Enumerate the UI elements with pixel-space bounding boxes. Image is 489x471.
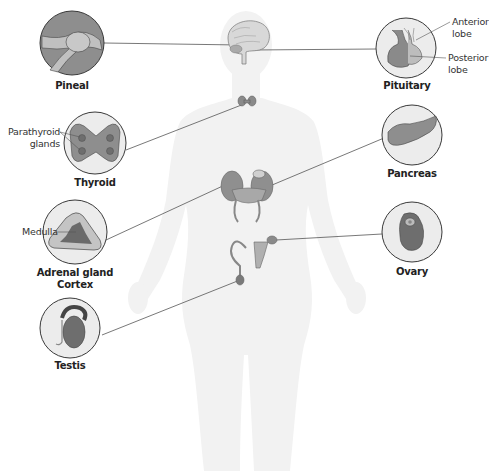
testis-circle [40, 298, 100, 358]
silhouette-right-hand [346, 282, 366, 314]
silhouette-left-hand [128, 282, 148, 314]
callout-anterior-lobe: Anterior lobe [452, 16, 489, 40]
label-pituitary: Pituitary [382, 80, 432, 91]
callout-posterior-line2: lobe [448, 64, 488, 76]
label-adrenal: Adrenal gland [32, 267, 118, 278]
callout-anterior-line2: lobe [452, 28, 489, 40]
callout-medulla: Medulla [22, 226, 58, 238]
callout-anterior-line1: Anterior [452, 16, 489, 28]
pituitary-circle [376, 18, 436, 78]
pancreas-circle [382, 105, 442, 165]
label-pancreas: Pancreas [384, 168, 440, 179]
label-ovary: Ovary [394, 266, 430, 277]
ovary-circle [382, 202, 442, 262]
callout-medulla-text: Medulla [22, 226, 58, 238]
callout-parathyroid-line1: Parathyroid [8, 126, 60, 138]
label-pineal: Pineal [52, 80, 92, 91]
callout-posterior-lobe: Posterior lobe [448, 52, 488, 76]
label-cortex: Cortex [50, 279, 100, 290]
callout-posterior-line1: Posterior [448, 52, 488, 64]
label-testis: Testis [50, 360, 90, 371]
thyroid-circle [64, 112, 126, 174]
callout-parathyroid-line2: glands [8, 138, 60, 150]
leader-pineal [104, 43, 240, 45]
silhouette-torso [130, 98, 364, 471]
pineal-circle [40, 11, 104, 75]
label-thyroid: Thyroid [72, 177, 118, 188]
body-silhouette [128, 11, 366, 471]
callout-parathyroid: Parathyroid glands [8, 126, 60, 150]
silhouette-neck [232, 72, 260, 102]
